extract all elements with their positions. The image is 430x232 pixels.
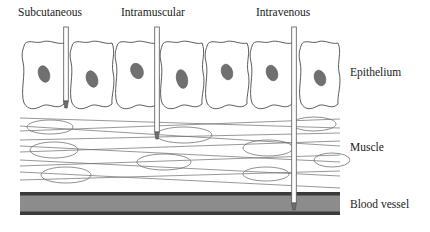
layer-label-epithelium: Epithelium: [350, 66, 401, 79]
layer-label-muscle: Muscle: [350, 141, 384, 153]
intramuscular-needle-tip: [155, 132, 160, 139]
tissue-cross-section-figure: SubcutaneousIntramuscularIntravenous Epi…: [0, 0, 430, 232]
route-label-intramuscular: Intramuscular: [121, 6, 185, 18]
layer-label-blood-vessel: Blood vessel: [350, 198, 409, 210]
blood-vessel-wall-bottom: [20, 212, 340, 216]
intramuscular-needle-shaft: [155, 27, 160, 132]
subcutaneous-needle-shaft: [64, 27, 69, 101]
intravenous-needle-shaft: [292, 27, 297, 203]
route-label-subcutaneous: Subcutaneous: [18, 6, 82, 18]
route-label-intravenous: Intravenous: [256, 6, 311, 18]
intravenous-needle-tip: [292, 203, 297, 210]
subcutaneous-needle-tip: [64, 101, 69, 108]
injection-routes-diagram: SubcutaneousIntramuscularIntravenous Epi…: [0, 0, 430, 232]
route-label-layer: SubcutaneousIntramuscularIntravenous: [18, 6, 311, 18]
